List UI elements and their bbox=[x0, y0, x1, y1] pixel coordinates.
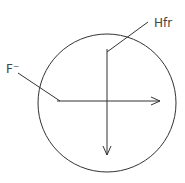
f-minus-leader-line bbox=[18, 73, 60, 101]
hfr-label: Hfr bbox=[154, 16, 172, 30]
conjugation-diagram: Hfr F⁻ bbox=[0, 0, 185, 183]
f-minus-label: F⁻ bbox=[6, 62, 19, 76]
hfr-leader-line bbox=[107, 22, 148, 52]
